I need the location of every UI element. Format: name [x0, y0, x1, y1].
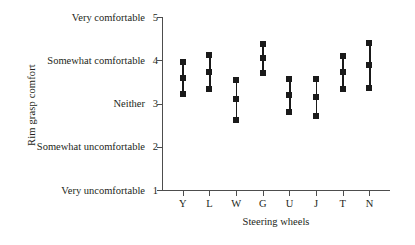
x-axis-tick-mark [369, 191, 370, 196]
y-axis-tick-mark [157, 147, 162, 148]
data-point-upper [233, 77, 239, 83]
y-axis-tick-label: Very uncomfortable1 [12, 185, 158, 196]
data-point-lower [366, 85, 372, 91]
y-axis-tick-text: Somewhat uncomfortable [37, 141, 145, 152]
chart-figure: Rim grasp comfort Very comfortable5Somew… [0, 0, 415, 245]
y-axis-tick-text: Very uncomfortable [61, 185, 145, 196]
y-axis-tick-labels: Very comfortable5Somewhat comfortable4Ne… [12, 0, 158, 245]
y-axis-tick-label: Somewhat uncomfortable2 [12, 141, 158, 152]
x-axis-tick-label: J [304, 198, 328, 210]
x-axis-tick-label: T [331, 198, 355, 210]
data-point-lower [206, 86, 212, 92]
data-point-lower [180, 91, 186, 97]
y-axis-tick-text: Neither [114, 98, 146, 109]
data-series-T [343, 17, 344, 190]
data-point-mean [180, 75, 186, 81]
x-axis-tick-mark [236, 191, 237, 196]
y-axis-tick-label: Very comfortable5 [12, 12, 158, 23]
y-axis-tick-label: Somewhat comfortable4 [12, 55, 158, 66]
y-axis-tick-mark [157, 17, 162, 18]
data-point-upper [286, 76, 292, 82]
x-axis-tick-label: L [197, 198, 221, 210]
y-axis-tick-mark [157, 190, 162, 191]
x-axis-tick-mark [209, 191, 210, 196]
data-series-W [236, 17, 237, 190]
x-axis-tick-mark [316, 191, 317, 196]
x-axis-tick-label: U [277, 198, 301, 210]
data-series-Y [183, 17, 184, 190]
data-point-lower [286, 109, 292, 115]
x-axis-tick-label: Y [171, 198, 195, 210]
data-series-U [289, 17, 290, 190]
data-point-mean [206, 69, 212, 75]
y-axis-tick-mark [157, 60, 162, 61]
data-point-upper [366, 40, 372, 46]
x-axis-line [162, 190, 390, 191]
data-point-upper [180, 59, 186, 65]
x-axis-tick-label: G [251, 198, 275, 210]
y-axis-tick-text: Very comfortable [72, 12, 145, 23]
data-series-J [316, 17, 317, 190]
data-point-upper [313, 76, 319, 82]
y-axis-tick-label: Neither3 [12, 98, 158, 109]
data-point-mean [340, 69, 346, 75]
data-point-lower [340, 86, 346, 92]
data-point-upper [260, 41, 266, 47]
data-point-lower [260, 70, 266, 76]
data-point-lower [313, 113, 319, 119]
data-series-N [369, 17, 370, 190]
x-axis-tick-mark [289, 191, 290, 196]
data-point-lower [233, 117, 239, 123]
data-point-upper [206, 52, 212, 58]
data-series-L [209, 17, 210, 190]
y-axis-line [162, 17, 163, 190]
data-series-G [263, 17, 264, 190]
x-axis-title: Steering wheels [162, 216, 390, 227]
data-point-mean [260, 55, 266, 61]
data-point-mean [366, 62, 372, 68]
x-axis-tick-mark [263, 191, 264, 196]
data-point-mean [286, 92, 292, 98]
data-point-upper [340, 53, 346, 59]
y-axis-tick-text: Somewhat comfortable [47, 55, 145, 66]
x-axis-tick-label: W [224, 198, 248, 210]
x-axis-tick-mark [343, 191, 344, 196]
plot-area: YLWGUJTN [162, 17, 390, 190]
data-point-mean [313, 94, 319, 100]
x-axis-tick-label: N [357, 198, 381, 210]
y-axis-tick-mark [157, 104, 162, 105]
x-axis-tick-mark [183, 191, 184, 196]
data-point-mean [233, 96, 239, 102]
